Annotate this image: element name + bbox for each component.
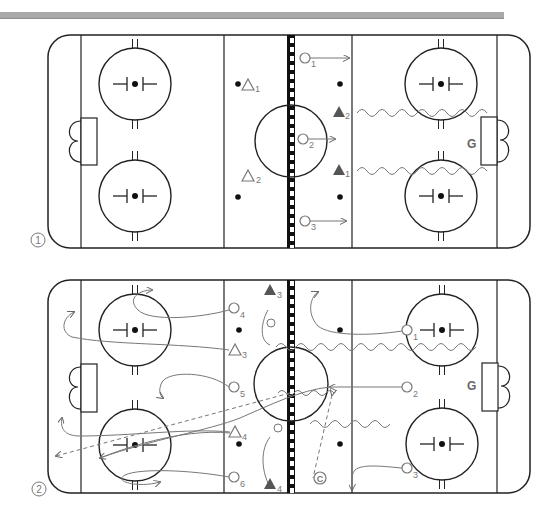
forward-triangle-2 xyxy=(333,106,345,117)
faceoff-dot xyxy=(337,441,343,447)
faceoff-dot xyxy=(236,441,242,447)
forward-label: 3 xyxy=(277,290,282,300)
offense-label: 1 xyxy=(413,332,418,342)
center-red-line xyxy=(287,35,295,248)
forward-label: 4 xyxy=(277,484,282,494)
faceoff-dot xyxy=(337,194,343,200)
coach-marker: C xyxy=(314,472,326,484)
faceoff-circle xyxy=(99,39,171,129)
forward-label: 2 xyxy=(345,111,350,121)
faceoff-dot xyxy=(235,81,241,87)
panel-number-1: 1 xyxy=(31,233,45,247)
skate-with-puck-path xyxy=(357,110,487,117)
forward-label: 1 xyxy=(345,169,350,179)
faceoff-circle xyxy=(99,400,171,490)
skate-with-puck-path xyxy=(310,421,390,428)
offense-player-4 xyxy=(229,303,239,313)
faceoff-circle xyxy=(405,39,477,129)
defender-label: 1 xyxy=(255,84,260,94)
offense-label: 6 xyxy=(240,479,245,489)
defender-triangle-2 xyxy=(242,170,254,181)
forward-triangle-4 xyxy=(264,478,276,489)
rink-panel-1: 1 2 1 2 3 2 1 G 1 xyxy=(31,35,530,248)
offense-label: 2 xyxy=(309,140,314,150)
faceoff-dot xyxy=(337,327,343,333)
center-red-line xyxy=(287,280,295,493)
offense-player-3 xyxy=(402,463,412,473)
faceoff-dot xyxy=(236,327,242,333)
forward-triangle-1 xyxy=(333,164,345,175)
offense-player-2 xyxy=(298,134,308,144)
goal-net-left xyxy=(69,118,97,165)
faceoff-circle xyxy=(99,151,171,241)
pass-line xyxy=(313,395,332,478)
curl-loop xyxy=(274,424,282,432)
goal-net-left xyxy=(69,364,97,412)
svg-text:1: 1 xyxy=(35,235,41,246)
offense-player-1 xyxy=(402,325,412,335)
goal-net-right xyxy=(482,363,510,411)
curl-loop xyxy=(267,319,275,327)
offense-label: 3 xyxy=(413,470,418,480)
offense-player-2 xyxy=(402,382,412,392)
rink-panel-2: 4 5 6 1 2 3 3 4 3 4 C G 2 xyxy=(32,280,530,496)
offense-player-3 xyxy=(300,216,310,226)
offense-player-1 xyxy=(300,53,310,63)
offense-label: 2 xyxy=(413,389,418,399)
faceoff-dot xyxy=(235,194,241,200)
goalie-label: G xyxy=(467,137,476,151)
defender-triangle-1 xyxy=(242,79,254,90)
faceoff-circle xyxy=(405,151,477,241)
defender-label: 3 xyxy=(242,350,247,360)
defender-triangle-4 xyxy=(229,426,241,437)
defender-triangle-3 xyxy=(229,344,241,355)
offense-label: 4 xyxy=(240,310,245,320)
offense-label: 1 xyxy=(311,59,316,69)
drill-diagram: 1 2 1 2 3 2 1 G 1 xyxy=(0,0,558,522)
goalie-label: G xyxy=(467,379,476,393)
faceoff-circle xyxy=(406,285,478,375)
offense-label: 5 xyxy=(240,389,245,399)
skate-with-puck-path xyxy=(357,168,487,175)
svg-text:2: 2 xyxy=(36,484,42,495)
faceoff-circle xyxy=(99,285,171,375)
panel-number-2: 2 xyxy=(32,482,46,496)
offense-player-5 xyxy=(229,382,239,392)
goal-net-right xyxy=(481,117,509,165)
faceoff-dot xyxy=(337,81,343,87)
defender-label: 2 xyxy=(256,175,261,185)
defender-label: 4 xyxy=(242,432,247,442)
svg-text:C: C xyxy=(317,474,324,484)
offense-player-6 xyxy=(229,472,239,482)
offense-label: 3 xyxy=(311,222,316,232)
forward-triangle-3 xyxy=(264,284,276,295)
